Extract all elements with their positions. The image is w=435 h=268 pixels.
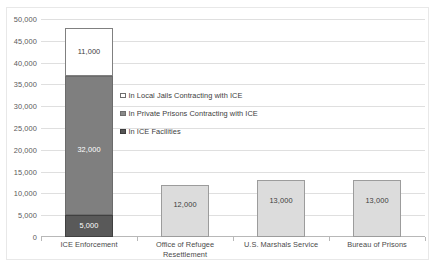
legend-item-private-prisons[interactable]: In Private Prisons Contracting with ICE [120,106,270,121]
x-axis-labels: ICE Enforcement Office of Refugee Resett… [41,240,425,266]
y-tick-label: 40,000 [0,58,37,67]
bar-value-label: 32,000 [77,145,100,154]
x-axis-tick [425,237,426,241]
legend-swatch-icon [120,111,126,117]
y-axis-labels: 50,000 45,000 40,000 35,000 30,000 25,00… [0,19,37,237]
x-category-label: U.S. Marshals Service [233,240,329,250]
legend-label: In ICE Facilities [129,127,181,136]
chart-legend: In Local Jails Contracting with ICE In P… [120,88,270,142]
bar-value-label: 11,000 [78,47,101,56]
y-tick-label: 20,000 [0,145,37,154]
legend-swatch-icon [120,129,126,135]
x-category-label: ICE Enforcement [41,240,137,250]
y-tick-label: 15,000 [0,167,37,176]
bar-bureau-of-prisons[interactable] [353,180,401,237]
bar-value-label: 12,000 [173,200,196,209]
x-category-label: Bureau of Prisons [329,240,425,250]
y-tick-label: 45,000 [0,36,37,45]
legend-item-local-jails[interactable]: In Local Jails Contracting with ICE [120,88,270,103]
legend-label: In Private Prisons Contracting with ICE [129,109,258,118]
bar-us-marshals-service[interactable] [257,180,305,237]
x-category-label: Office of Refugee Resettlement [137,240,233,259]
y-tick-label: 10,000 [0,189,37,198]
legend-item-ice-facilities[interactable]: In ICE Facilities [120,124,270,139]
y-tick-label: 35,000 [0,80,37,89]
bar-value-label: 13,000 [269,196,292,205]
chart-container: 50,000 45,000 40,000 35,000 30,000 25,00… [0,0,435,268]
y-tick-label: 0 [0,233,37,242]
bar-value-label: 13,000 [365,196,388,205]
y-tick-label: 50,000 [0,15,37,24]
bar-office-of-refugee-resettlement[interactable] [161,185,209,237]
bar-group-bureau-of-prisons: 13,000 [329,19,425,237]
y-tick-label: 25,000 [0,124,37,133]
legend-label: In Local Jails Contracting with ICE [129,91,243,100]
y-tick-label: 5,000 [0,211,37,220]
legend-swatch-icon [120,93,126,99]
y-tick-label: 30,000 [0,102,37,111]
bar-value-label: 5,000 [80,221,99,230]
